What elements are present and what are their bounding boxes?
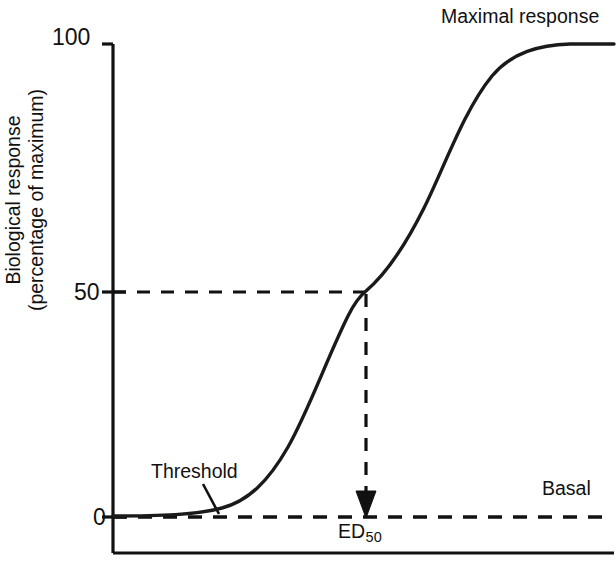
y-axis-title-line-2: (percentage of maximum) [25,40,48,360]
y-axis-title: Biological response (percentage of maxim… [2,40,62,360]
ed50-arrowhead-icon [356,491,376,518]
annotation-maximal-response: Maximal response [441,6,599,28]
annotation-threshold: Threshold [151,461,238,483]
annotation-ed50-subscript: 50 [366,529,382,545]
dose-response-figure: 100 50 0 Biological response (percentage… [0,0,616,576]
y-tick-label-50: 50 [74,280,100,306]
annotation-basal: Basal [542,478,591,500]
dose-response-curve [113,44,614,516]
y-axis-title-line-1: Biological response [2,40,25,360]
annotation-ed50-text: ED [338,520,365,542]
annotation-ed50: ED50 [338,521,381,543]
y-tick-label-0: 0 [93,505,106,531]
